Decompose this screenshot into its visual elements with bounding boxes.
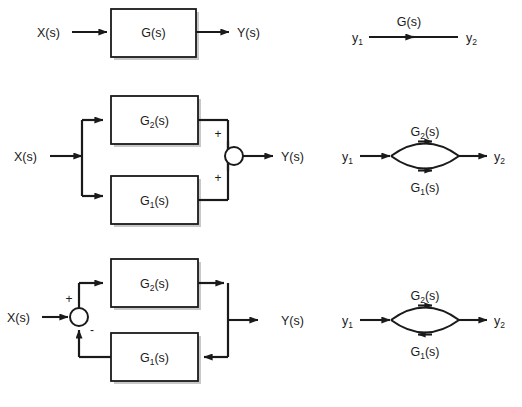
junction-sign-bottom: -: [90, 323, 94, 337]
row-parallel-signal-flow-graph: y1 G2(s) G1(s) y2: [342, 125, 505, 197]
output-label: Y(s): [281, 150, 304, 164]
junction-sign-top: +: [214, 127, 221, 141]
sfg-branch-bottom: [391, 156, 459, 169]
row-feedback-signal-flow-graph: y1 G2(s) G1(s) y2: [342, 289, 505, 361]
summing-junction: [225, 147, 243, 165]
sfg-branch-label-top: G2(s): [410, 125, 439, 141]
junction-sign-bottom: +: [214, 171, 221, 185]
sfg-sink-node: y2: [494, 314, 505, 330]
sfg-sink-node: y2: [494, 150, 505, 166]
sfg-sink-node: y2: [466, 31, 477, 47]
sfg-source-node: y1: [342, 314, 353, 330]
summing-junction: [70, 308, 88, 326]
row-cascade-block-diagram: X(s) G(s) Y(s): [37, 9, 260, 60]
sfg-source-node: y1: [352, 31, 363, 47]
input-label: X(s): [37, 26, 60, 40]
junction-sign-top: +: [65, 292, 72, 306]
sfg-source-node: y1: [342, 150, 353, 166]
sfg-branch-label-bottom: G1(s): [410, 345, 439, 361]
input-label: X(s): [7, 311, 30, 325]
output-label: Y(s): [281, 314, 304, 328]
sfg-branch-label: G(s): [397, 15, 421, 29]
row-parallel-block-diagram: X(s) G2(s) G1(s) + + Y(s): [14, 96, 304, 227]
sfg-branch-label-bottom: G1(s): [410, 181, 439, 197]
input-label: X(s): [14, 150, 37, 164]
diagram-svg: X(s) G(s) Y(s) y1 G(s) y2 X(s) G2(s) G1(…: [0, 0, 522, 407]
block-label-g2: G2(s): [140, 277, 169, 293]
sfg-branch-top: [391, 308, 459, 321]
sfg-branch-top: [391, 144, 459, 157]
block-label-g1: G1(s): [140, 194, 169, 210]
block-label-g: G(s): [141, 26, 165, 40]
output-label: Y(s): [237, 26, 260, 40]
block-label-g1: G1(s): [140, 351, 169, 367]
figure-canvas: X(s) G(s) Y(s) y1 G(s) y2 X(s) G2(s) G1(…: [0, 0, 522, 407]
sfg-branch-label-top: G2(s): [410, 289, 439, 305]
block-label-g2: G2(s): [140, 114, 169, 130]
row-feedback-block-diagram: X(s) + - G2(s) Y(s) G1(s): [7, 259, 304, 384]
sfg-branch-bottom: [391, 320, 459, 333]
row-cascade-signal-flow-graph: y1 G(s) y2: [352, 15, 477, 47]
